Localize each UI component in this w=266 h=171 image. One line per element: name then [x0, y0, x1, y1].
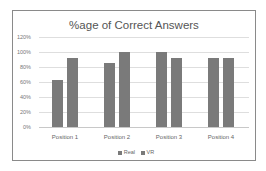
legend-swatch-vr [141, 151, 145, 155]
gridline [39, 127, 249, 128]
x-tick-label: Position 1 [39, 134, 91, 140]
y-tick-label: 100% [9, 49, 31, 55]
bar-real-3 [156, 52, 167, 127]
gridline [39, 52, 249, 53]
bar-real-4 [208, 58, 219, 127]
bar-real-1 [52, 80, 63, 127]
y-tick-label: 60% [9, 79, 31, 85]
legend-label-real: Real [124, 149, 135, 155]
chart-title: %age of Correct Answers [13, 19, 255, 31]
bar-vr-4 [223, 58, 234, 127]
x-tick-label: Position 2 [91, 134, 143, 140]
y-tick-label: 40% [9, 94, 31, 100]
legend-label-vr: VR [147, 149, 155, 155]
x-tick-label: Position 4 [195, 134, 247, 140]
x-tick-label: Position 3 [143, 134, 195, 140]
y-tick-label: 20% [9, 109, 31, 115]
legend-swatch-real [118, 151, 122, 155]
bar-real-2 [104, 63, 115, 127]
legend: Real VR [13, 149, 255, 155]
gridline [39, 37, 249, 38]
bar-vr-3 [171, 58, 182, 127]
y-tick-label: 80% [9, 64, 31, 70]
chart-frame: %age of Correct Answers Real VR 0%20%40%… [12, 10, 256, 161]
y-tick-label: 120% [9, 34, 31, 40]
bar-vr-2 [119, 52, 130, 127]
y-tick-label: 0% [9, 124, 31, 130]
bar-vr-1 [67, 58, 78, 127]
